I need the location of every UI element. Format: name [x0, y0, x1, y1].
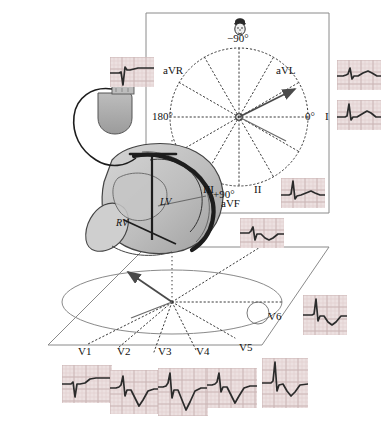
lead-label-avr: aVR — [163, 65, 183, 76]
ecg-strip-v1 — [62, 365, 112, 403]
lead-label-avl: aVL — [276, 65, 296, 76]
precordial-label-v1: V1 — [78, 346, 91, 357]
ecg-strip-ii — [281, 178, 325, 208]
horizontal-plane-frame — [48, 247, 329, 345]
lead-label-i: I — [325, 111, 329, 122]
precordial-label-v3: V3 — [158, 346, 171, 357]
ecg-strip-v6 — [303, 295, 347, 335]
chamber-label-lv: LV — [160, 197, 171, 207]
precordial-label-v5: V5 — [239, 342, 252, 353]
precordial-label-v2: V2 — [117, 346, 130, 357]
lead-label-iii: III — [203, 184, 214, 195]
degree-label-minus90: −90° — [227, 33, 249, 44]
degree-label-zero: 0° — [305, 111, 315, 122]
lead-label-ii: II — [254, 184, 261, 195]
pacemaker-generator — [98, 86, 134, 134]
ecg-strip-i — [337, 100, 381, 130]
heart-cross-section — [86, 144, 223, 256]
ecg-strip-v2 — [110, 370, 160, 414]
diagram-lineart — [0, 0, 383, 426]
lead-label-avf: aVF — [221, 198, 240, 209]
precordial-label-v4: V4 — [196, 346, 209, 357]
figure-canvas: −90° 0° 180° +90° aVR aVL I II III aVF L… — [0, 0, 383, 426]
ecg-strip-v4 — [207, 368, 257, 408]
ecg-strip-avl — [337, 60, 381, 90]
ecg-strip-avr — [110, 57, 154, 87]
ecg-strip-avf — [240, 218, 284, 248]
chamber-label-rv: RV — [116, 218, 128, 228]
pacemaker-header — [112, 86, 134, 94]
ecg-strip-v5 — [262, 358, 308, 408]
precordial-label-v6: V6 — [268, 311, 281, 322]
ecg-strip-v3 — [158, 368, 208, 416]
degree-label-180: 180° — [152, 111, 173, 122]
